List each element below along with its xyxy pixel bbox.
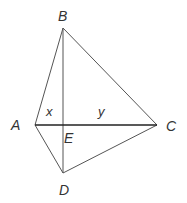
vertex-label-a: A	[10, 117, 20, 133]
vertex-label-b: B	[58, 8, 67, 24]
vertex-label-c: C	[166, 118, 177, 134]
geometry-diagram: B A C E D x y	[0, 0, 187, 203]
segments	[35, 28, 157, 173]
vertex-label-e: E	[64, 130, 74, 146]
variable-label-y: y	[97, 104, 106, 119]
vertex-label-d: D	[59, 182, 69, 198]
segment-ad	[35, 125, 63, 173]
segment-dc	[63, 125, 157, 173]
variable-label-x: x	[45, 104, 53, 119]
segment-bc	[63, 28, 157, 125]
labels: B A C E D x y	[10, 8, 177, 198]
